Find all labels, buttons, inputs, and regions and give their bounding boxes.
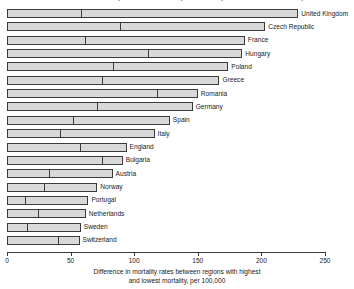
x-axis-line xyxy=(7,252,325,253)
x-axis-tick xyxy=(134,252,135,256)
bar xyxy=(7,49,242,58)
bar-divider xyxy=(25,196,26,205)
bar-divider xyxy=(157,89,158,98)
bar-row: Greece xyxy=(0,75,354,88)
x-axis-tick xyxy=(198,252,199,256)
bar-divider xyxy=(120,22,121,31)
bar xyxy=(7,9,298,18)
bar-row: Bulgaria xyxy=(0,155,354,168)
plot-area: United KingdomCzech RepublicFranceHungar… xyxy=(0,8,354,252)
bar-row: England xyxy=(0,142,354,155)
chart-title: Difference in mortality rates between re… xyxy=(0,0,354,1)
bar-divider xyxy=(102,156,103,165)
x-axis-tick-label: 50 xyxy=(67,257,74,265)
bar-row: Czech Republic xyxy=(0,21,354,34)
bar-divider xyxy=(81,9,82,18)
bar-divider xyxy=(44,183,45,192)
bar xyxy=(7,116,170,125)
bar-category-label: Czech Republic xyxy=(268,23,314,31)
bar xyxy=(7,143,127,152)
bar xyxy=(7,196,88,205)
bar-row: Italy xyxy=(0,128,354,141)
bar xyxy=(7,89,198,98)
bar-row: Hungary xyxy=(0,48,354,61)
bar-divider xyxy=(148,49,149,58)
bar xyxy=(7,183,97,192)
bar-divider xyxy=(27,223,28,232)
bar-row: United Kingdom xyxy=(0,8,354,21)
bar-divider xyxy=(58,236,59,245)
bar-category-label: Germany xyxy=(196,103,223,111)
bar-row: Norway xyxy=(0,182,354,195)
x-axis-tick-label: 150 xyxy=(192,257,203,265)
bar-category-label: England xyxy=(130,143,154,151)
bar-row: Poland xyxy=(0,61,354,74)
bar-row: Netherlands xyxy=(0,208,354,221)
bar-category-label: Sweden xyxy=(84,223,108,231)
bar xyxy=(7,156,123,165)
bar-row: Germany xyxy=(0,101,354,114)
x-axis: 050100150200250 xyxy=(0,252,354,260)
x-axis-label-line1: Difference in mortality rates between re… xyxy=(0,267,354,276)
x-axis-tick xyxy=(7,252,8,256)
bar-category-label: Switzerland xyxy=(83,236,117,244)
bar-divider xyxy=(38,209,39,218)
bar xyxy=(7,209,86,218)
bar xyxy=(7,102,193,111)
bar-category-label: Italy xyxy=(158,130,170,138)
x-axis-tick-label: 250 xyxy=(319,257,330,265)
x-axis-tick-label: 200 xyxy=(256,257,267,265)
bar-row: Switzerland xyxy=(0,235,354,248)
bar-category-label: Austria xyxy=(116,170,137,178)
bar xyxy=(7,36,245,45)
bar-row: Austria xyxy=(0,168,354,181)
mortality-difference-bar-chart: Difference in mortality rates between re… xyxy=(0,0,354,289)
bar-divider xyxy=(97,102,98,111)
bar-divider xyxy=(113,62,114,71)
bar-category-label: Hungary xyxy=(245,50,270,58)
bar-divider xyxy=(80,143,81,152)
bar-category-label: Norway xyxy=(100,183,122,191)
bar-category-label: Spain xyxy=(173,116,190,124)
bar-row: Spain xyxy=(0,115,354,128)
x-axis-tick-label: 100 xyxy=(129,257,140,265)
bar-category-label: Bulgaria xyxy=(126,156,150,164)
x-axis-tick xyxy=(261,252,262,256)
bar-divider xyxy=(73,116,74,125)
x-axis-label: Difference in mortality rates between re… xyxy=(0,267,354,285)
bar-row: Sweden xyxy=(0,222,354,235)
bar-row: Romania xyxy=(0,88,354,101)
bar-category-label: United Kingdom xyxy=(301,10,348,18)
bar-divider xyxy=(60,129,61,138)
bar xyxy=(7,236,80,245)
bar-row: Portugal xyxy=(0,195,354,208)
bar-category-label: France xyxy=(248,36,269,44)
bar-category-label: Portugal xyxy=(91,196,116,204)
bar xyxy=(7,169,113,178)
x-axis-tick-label: 0 xyxy=(5,257,9,265)
bar xyxy=(7,223,81,232)
bar-category-label: Romania xyxy=(201,90,227,98)
bar-divider xyxy=(49,169,50,178)
bar xyxy=(7,129,155,138)
x-axis-tick xyxy=(325,252,326,256)
bar xyxy=(7,62,228,71)
bar-row: France xyxy=(0,35,354,48)
x-axis-label-line2: and lowest mortality, per 100,000 xyxy=(0,276,354,285)
bar-category-label: Greece xyxy=(222,76,244,84)
bar xyxy=(7,22,265,31)
bar-category-label: Poland xyxy=(231,63,252,71)
bar-category-label: Netherlands xyxy=(89,210,125,218)
bar xyxy=(7,76,219,85)
x-axis-tick xyxy=(71,252,72,256)
bar-divider xyxy=(102,76,103,85)
bar-divider xyxy=(85,36,86,45)
